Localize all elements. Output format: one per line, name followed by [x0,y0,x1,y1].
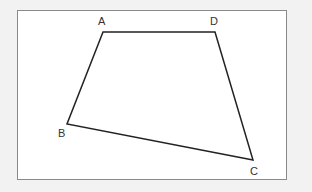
vertex-label-b: B [58,127,65,139]
vertex-label-c: C [250,165,258,177]
vertex-label-d: D [210,15,218,27]
vertex-label-a: A [98,15,106,27]
quadrilateral-diagram: A D C B [0,0,312,192]
quadrilateral-abcd [67,32,253,160]
